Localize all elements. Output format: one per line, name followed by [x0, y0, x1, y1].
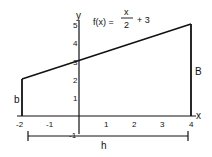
y-tick-label: 2	[73, 76, 78, 85]
function-label: f(x) =	[93, 17, 114, 27]
function-suffix: + 3	[137, 15, 150, 25]
y-tick-label: 5	[73, 21, 78, 30]
right-side-label: B	[195, 66, 202, 77]
x-tick-label: 2	[132, 120, 137, 129]
left-side-label: b	[14, 94, 20, 105]
y-tick-label: 1	[73, 94, 78, 103]
height-label: h	[101, 140, 107, 151]
function-line	[22, 24, 191, 79]
y-tick-label: -1	[69, 131, 77, 140]
x-tick-label: 3	[160, 120, 165, 129]
x-tick-label: -2	[16, 120, 24, 129]
x-tick-label: -1	[46, 120, 54, 129]
y-axis-label: y	[76, 10, 81, 21]
x-tick-label: 1	[104, 120, 109, 129]
fraction-denominator: 2	[124, 20, 129, 30]
trapezoid-diagram: -2 -1 1 2 3 4 1 2 3 4 5 -1 y x b B h f(x…	[0, 0, 212, 157]
x-axis-label: x	[196, 110, 201, 121]
y-tick-label: 4	[73, 39, 78, 48]
y-tick-label: 3	[73, 58, 78, 67]
x-tick-label: 4	[189, 120, 194, 129]
fraction-numerator: x	[124, 7, 129, 17]
